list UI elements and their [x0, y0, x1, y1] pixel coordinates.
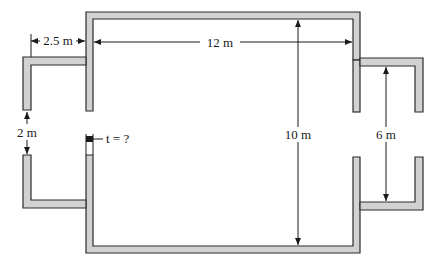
- label-thickness: t = ?: [106, 131, 129, 146]
- dimension-left-extension: 2.5 m: [31, 33, 85, 57]
- dimension-left-opening: 2 m: [17, 112, 37, 154]
- label-10m: 10 m: [285, 127, 311, 142]
- right-upper-wall-stub: [353, 60, 360, 112]
- left-upper-extension: [23, 57, 86, 110]
- label-2-5m: 2.5 m: [43, 33, 73, 48]
- label-2m: 2 m: [17, 125, 37, 140]
- top-wall: [86, 12, 360, 111]
- label-6m: 6 m: [376, 127, 396, 142]
- label-12m: 12 m: [207, 35, 233, 50]
- dimension-wall-thickness: t = ?: [86, 131, 129, 155]
- dimension-main-width: 12 m: [94, 34, 352, 50]
- structure-diagram: 2.5 m 12 m 10 m 6 m 2 m t: [0, 0, 442, 270]
- left-lower-extension: [23, 155, 86, 208]
- dimension-main-height: 10 m: [282, 20, 316, 245]
- right-upper-extension: [360, 58, 423, 112]
- right-lower-extension: [360, 157, 423, 210]
- bottom-wall: [86, 155, 360, 253]
- dimension-right-opening: 6 m: [374, 67, 400, 201]
